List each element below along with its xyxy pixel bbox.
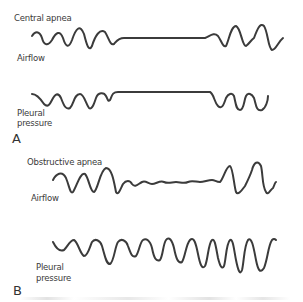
panel-b-pleural-trace bbox=[53, 238, 276, 272]
panel-a-pleural-trace bbox=[32, 92, 268, 110]
panel-b-airflow-trace bbox=[53, 163, 276, 194]
cropped-caption-line bbox=[20, 297, 290, 300]
waveforms bbox=[0, 0, 303, 302]
panel-a-airflow-trace bbox=[32, 25, 283, 50]
